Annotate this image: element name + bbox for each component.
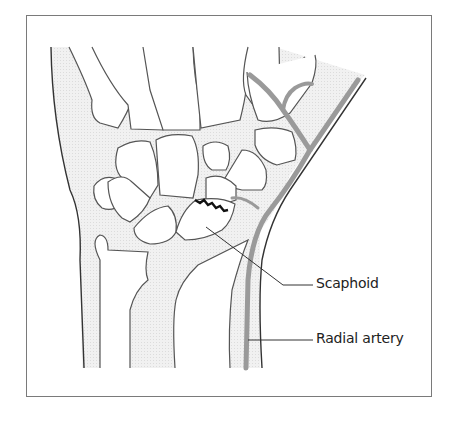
wrist-diagram — [0, 0, 456, 421]
label-radial-artery: Radial artery — [316, 330, 404, 346]
metacarpals — [69, 47, 316, 130]
label-scaphoid: Scaphoid — [316, 275, 379, 291]
